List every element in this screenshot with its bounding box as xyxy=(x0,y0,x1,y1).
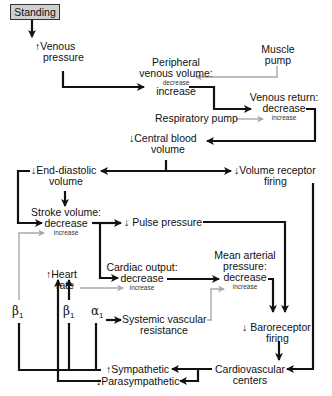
heart-rate-node: ↑Heart rate xyxy=(46,269,77,291)
central-blood-volume-node: ↓Central blood volume xyxy=(129,133,197,155)
venous-return-node: Venous return: decrease increase xyxy=(246,92,322,121)
pulse-pressure-node: ↓ Pulse pressure xyxy=(124,217,202,228)
decrease-arrow-icon: ↓ xyxy=(124,216,129,228)
volume-receptor-firing-node: ↓Volume receptor firing xyxy=(234,165,316,187)
alpha1-label: α1 xyxy=(91,306,104,321)
systemic-vascular-resistance-node: Systemic vascular resistance xyxy=(122,314,206,336)
beta1-left-label: β1 xyxy=(12,306,23,321)
end-diastolic-volume-node: ↓End-diastolic volume xyxy=(31,165,96,187)
cardiac-output-node: Cardiac output: decrease increase xyxy=(104,262,180,291)
mean-arterial-pressure-node: Mean arterial pressure: decrease increas… xyxy=(210,250,280,290)
parasympathetic-node: ↓Parasympathetic xyxy=(96,376,179,387)
stroke-volume-node: Stroke volume: decrease increase xyxy=(30,207,102,236)
beta1-mid-label: β1 xyxy=(63,306,74,321)
cardiovascular-centers-node: Cardiovascular centers xyxy=(214,364,286,386)
standing-box: Standing xyxy=(10,4,60,20)
peripheral-venous-volume-node: Peripheral venous volume: decrease incre… xyxy=(134,57,218,97)
muscle-pump-node: Muscle pump xyxy=(257,44,299,66)
respiratory-pump-node: Respiratory pump xyxy=(155,113,238,124)
venous-pressure-node: ↑Venous pressure xyxy=(35,41,84,63)
sympathetic-node: ↑Sympathetic xyxy=(106,364,169,375)
baroreceptor-firing-node: ↓ Baroreceptor firing xyxy=(242,322,311,344)
